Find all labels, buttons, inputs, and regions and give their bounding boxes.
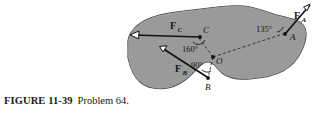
- point-marker-b: [206, 76, 210, 80]
- point-marker-c: [198, 35, 202, 39]
- force-fa-label: F: [294, 10, 300, 21]
- angle-arc-b: [202, 70, 211, 72]
- figure-caption-text: Problem 64.: [78, 95, 129, 106]
- point-label-a: A: [289, 32, 296, 42]
- point-label-c: C: [203, 25, 210, 35]
- angle-label-160: 160°: [182, 44, 198, 54]
- point-marker-a: [283, 32, 287, 36]
- force-fc-label: F: [170, 20, 176, 31]
- force-fb-label: F: [175, 63, 181, 74]
- point-label-o: O: [216, 56, 223, 66]
- angle-label-90: 90°: [191, 60, 203, 70]
- figure-page: F A F C F B C O B A 160° 90° 135° FIGURE…: [0, 0, 318, 118]
- force-fc-subscript: C: [178, 26, 183, 34]
- point-marker-o: [211, 55, 215, 59]
- rigid-body-shape: [128, 6, 306, 89]
- point-label-b: B: [205, 82, 211, 92]
- force-fb-subscript: B: [182, 69, 188, 77]
- figure-caption: FIGURE 11-39Problem 64.: [4, 95, 129, 106]
- figure-caption-label: FIGURE 11-39: [4, 95, 73, 106]
- angle-label-135: 135°: [256, 24, 272, 34]
- force-fa-subscript: A: [301, 16, 307, 24]
